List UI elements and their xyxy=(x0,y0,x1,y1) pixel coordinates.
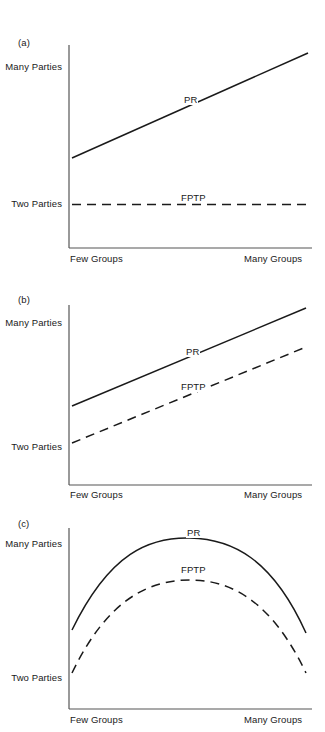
panel-a-plot xyxy=(0,0,325,275)
panel-b: (b) Many Parties Two Parties Few Groups … xyxy=(0,275,325,510)
panel-c-series-label-pr: PR xyxy=(186,528,201,538)
panel-c: (c) Many Parties Two Parties Few Groups … xyxy=(0,510,325,732)
panel-c-series-label-fptp: FPTP xyxy=(180,565,207,575)
panel-b-plot xyxy=(0,275,325,510)
panel-a: (a) Many Parties Two Parties Few Groups … xyxy=(0,0,325,275)
panel-c-series-fptp xyxy=(72,580,306,673)
panel-a-series-label-pr: PR xyxy=(183,95,198,105)
panel-c-plot xyxy=(0,510,325,732)
panel-a-series-label-fptp: FPTP xyxy=(180,193,207,203)
panel-b-series-label-pr: PR xyxy=(185,347,200,357)
panel-a-series-pr xyxy=(72,53,308,158)
panel-b-series-fptp xyxy=(72,347,306,443)
figure-container: (a) Many Parties Two Parties Few Groups … xyxy=(0,0,325,732)
panel-b-series-label-fptp: FPTP xyxy=(180,382,207,392)
